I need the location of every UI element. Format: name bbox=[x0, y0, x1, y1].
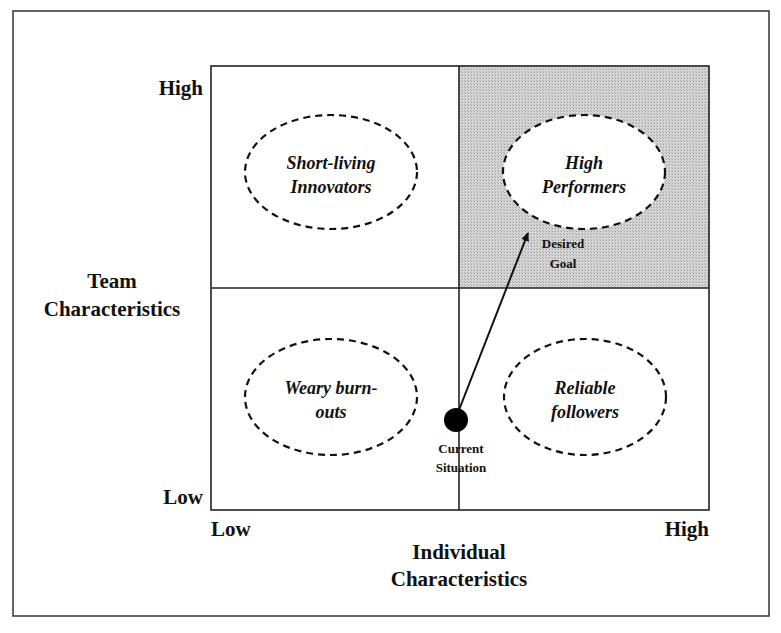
quadrant-label-line1: Weary burn- bbox=[284, 378, 377, 398]
y-axis-high-label: High bbox=[159, 76, 204, 100]
x-axis-low-label: Low bbox=[211, 517, 252, 541]
current-situation-label-line2: Situation bbox=[436, 460, 487, 475]
quadrant-label-line1: High bbox=[564, 153, 603, 173]
x-axis-high-label: High bbox=[665, 517, 710, 541]
quadrant-label-line1: Reliable bbox=[554, 378, 616, 398]
desired-goal-label-line2: Goal bbox=[550, 256, 577, 271]
current-situation-label-line1: Current bbox=[438, 441, 484, 456]
quadrant-reliable-followers: Reliable followers bbox=[504, 339, 666, 455]
x-axis-title-line1: Individual bbox=[412, 540, 506, 564]
quadrant-short-living-innovators: Short-living Innovators bbox=[245, 115, 417, 229]
quadrant-label-line2: followers bbox=[551, 402, 619, 422]
y-axis-title-line1: Team bbox=[87, 269, 137, 293]
matrix-diagram: Short-living Innovators High Performers … bbox=[0, 0, 781, 633]
x-axis-title-line2: Characteristics bbox=[391, 567, 527, 591]
quadrant-label-line2: outs bbox=[315, 402, 346, 422]
y-axis-title-line2: Characteristics bbox=[44, 297, 180, 321]
quadrant-weary-burnouts: Weary burn- outs bbox=[245, 339, 417, 455]
desired-goal-label-line1: Desired bbox=[542, 236, 585, 251]
quadrant-label-line2: Innovators bbox=[289, 177, 371, 197]
quadrant-high-performers: High Performers bbox=[503, 115, 665, 229]
quadrant-label-line2: Performers bbox=[541, 177, 626, 197]
quadrant-label-line1: Short-living bbox=[286, 153, 375, 173]
current-situation-dot bbox=[444, 408, 468, 432]
y-axis-low-label: Low bbox=[163, 485, 204, 509]
